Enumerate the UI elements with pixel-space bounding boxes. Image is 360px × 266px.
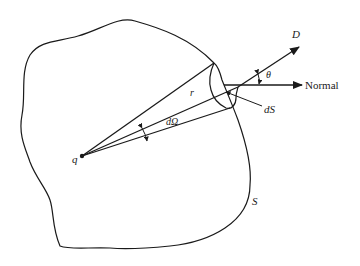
cone-upper-line (82, 63, 214, 156)
closed-surface-boundary (21, 20, 250, 249)
cone-lower-line (82, 108, 230, 156)
theta-angle-arc (258, 74, 259, 84)
surface-S-label: S (252, 195, 258, 207)
solid-angle-label: dΩ (166, 116, 178, 127)
charge-label: q (72, 153, 78, 165)
field-D-label: D (291, 28, 300, 40)
radius-label: r (190, 87, 194, 98)
field-D-arrow (238, 47, 299, 87)
dS-label: dS (264, 103, 276, 115)
gauss-law-diagram: q r dΩ D θ Normal dS S (0, 0, 360, 266)
charge-point (80, 154, 84, 158)
theta-label: θ (266, 69, 271, 80)
normal-label: Normal (305, 79, 339, 91)
